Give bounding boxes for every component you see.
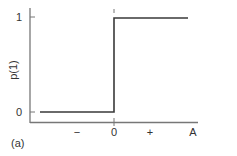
x-tick-label-zero: 0	[111, 126, 117, 138]
step-function-chart: 1 0 p(1) − 0 + A (a)	[0, 0, 237, 156]
x-tick-label-minus: −	[74, 126, 80, 138]
step-function-line	[40, 18, 188, 112]
x-tick-label-plus: +	[147, 126, 153, 138]
y-tick-label-1: 1	[16, 11, 22, 23]
y-tick-label-0: 0	[16, 106, 22, 118]
y-axis-label: p(1)	[7, 60, 19, 80]
panel-label: (a)	[11, 137, 24, 149]
x-axis-label: A	[189, 126, 197, 138]
